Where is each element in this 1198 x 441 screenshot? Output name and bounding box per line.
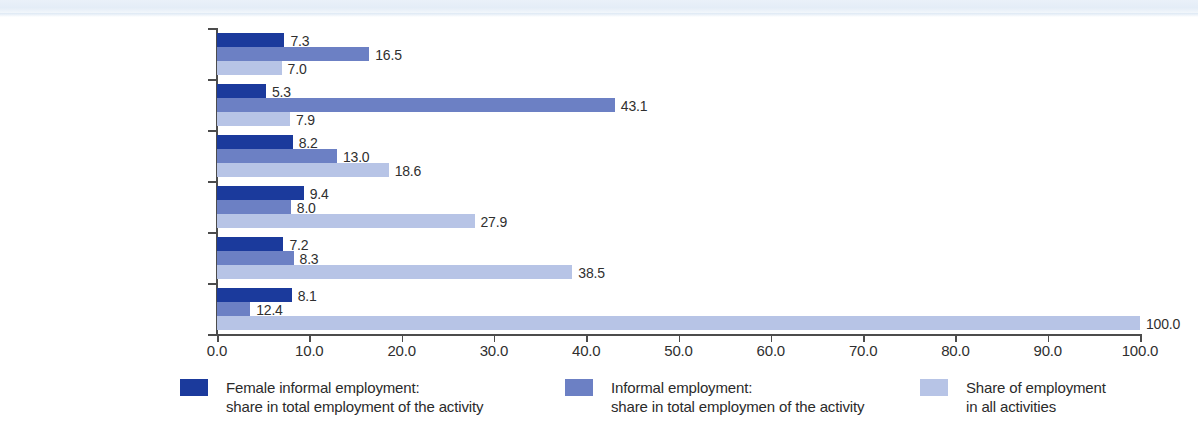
bar-value-label: 7.3 [290,34,309,48]
legend-swatch-icon [920,379,948,396]
bar-value-label: 8.1 [298,289,317,303]
plot-area: TransportationConstructionTradeManufactu… [217,28,1140,334]
bar-value-label: 8.2 [299,136,318,150]
bar-value-label: 13.0 [343,150,369,164]
bar [217,316,1140,330]
bar [217,302,250,316]
x-axis-tick-label: 60.0 [757,342,785,359]
x-axis-tick [771,334,773,342]
bar [217,61,282,75]
x-axis-tick-label: 90.0 [1033,342,1061,359]
page-top-band-edge [0,13,1198,17]
bar-value-label: 8.3 [300,252,319,266]
bar [217,214,475,228]
bar-value-label: 38.5 [578,266,604,280]
bar [217,135,293,149]
x-axis-tick-label: 0.0 [207,342,227,359]
x-axis-tick-label: 20.0 [387,342,415,359]
legend-item[interactable]: Informal employment: share in total empl… [565,378,864,416]
bar [217,237,283,251]
bar [217,98,615,112]
bar [217,112,290,126]
bar-value-label: 27.9 [481,215,507,229]
bar [217,47,369,61]
x-axis-tick-label: 50.0 [664,342,692,359]
legend-item[interactable]: Female informal employment: share in tot… [180,378,483,416]
x-axis-tick [863,334,865,342]
y-axis-tick [208,181,217,183]
bar [217,33,284,47]
legend-label: Informal employment: share in total empl… [611,378,864,416]
bar-value-label: 8.0 [297,201,316,215]
chart-figure: TransportationConstructionTradeManufactu… [0,0,1198,441]
bar-value-label: 7.0 [288,62,307,76]
y-axis-tick [208,232,217,234]
x-axis-tick [955,334,957,342]
bar-value-label: 12.4 [256,303,282,317]
x-axis-tick-label: 80.0 [941,342,969,359]
legend-swatch-icon [565,379,593,396]
y-axis-tick [208,334,217,336]
y-axis-tick [208,79,217,81]
bar [217,288,292,302]
x-axis-tick [309,334,311,342]
x-axis-tick [494,334,496,342]
bar [217,251,294,265]
bar [217,149,337,163]
y-axis-tick [208,283,217,285]
bar-value-label: 100.0 [1146,317,1180,331]
bar [217,163,389,177]
legend-item[interactable]: Share of employment in all activities [920,378,1106,416]
bar-value-label: 18.6 [395,164,421,178]
bar-value-label: 5.3 [272,85,291,99]
bar-value-label: 16.5 [375,48,401,62]
x-axis-tick-label: 70.0 [849,342,877,359]
x-axis-tick [217,334,219,342]
y-axis-tick [208,130,217,132]
x-axis-tick-label: 100.0 [1122,342,1159,359]
legend-label: Female informal employment: share in tot… [226,378,483,416]
bar [217,265,572,279]
bar [217,84,266,98]
x-axis-tick [586,334,588,342]
x-axis-tick [679,334,681,342]
x-axis-tick-label: 40.0 [572,342,600,359]
bar-value-label: 43.1 [621,99,647,113]
bar-value-label: 7.9 [296,113,315,127]
page-top-band [0,0,1198,14]
legend-label: Share of employment in all activities [966,378,1106,416]
x-axis-tick [1140,334,1142,342]
legend-swatch-icon [180,379,208,396]
y-axis-tick [208,28,217,30]
bar [217,200,291,214]
x-axis-tick-label: 30.0 [480,342,508,359]
x-axis-tick-label: 10.0 [295,342,323,359]
bar [217,186,304,200]
x-axis-tick [1048,334,1050,342]
chart-legend: Female informal employment: share in tot… [0,378,1198,434]
bar-value-label: 7.2 [289,238,308,252]
bar-value-label: 9.4 [310,187,329,201]
x-axis-tick [402,334,404,342]
